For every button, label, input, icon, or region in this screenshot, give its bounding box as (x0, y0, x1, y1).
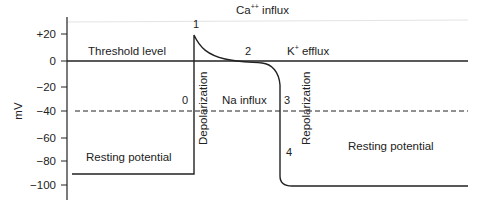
na-influx-label: Na influx (222, 94, 267, 106)
phase-label-0: 0 (182, 94, 188, 106)
k-efflux-label: K+ efflux (287, 44, 329, 57)
threshold-label: Threshold level (88, 45, 166, 57)
tick-label: −20 (36, 81, 56, 93)
resting-potential-left-label: Resting potential (86, 151, 172, 163)
resting-potential-right-label: Resting potential (348, 140, 434, 152)
tick-label: −100 (30, 179, 56, 191)
phase-label-2: 2 (245, 45, 251, 57)
phase-label-1: 1 (193, 18, 199, 30)
tick-label: +20 (36, 28, 56, 40)
top-guide-line (67, 20, 468, 22)
y-axis-ticks (61, 34, 67, 185)
tick-label: 0 (50, 55, 56, 67)
depolarization-label: Depolarization (197, 71, 209, 145)
repolarization-label: Repolarization (300, 71, 312, 145)
tick-label: −40 (36, 105, 56, 117)
phase-label-4: 4 (286, 146, 292, 158)
y-axis-label: mV (12, 102, 24, 120)
action-potential-diagram: Ca++ influx +20 0 −20 −40 −60 −80 −100 m… (0, 0, 477, 206)
phase-label-3: 3 (284, 94, 290, 106)
chart-title: Ca++ influx (236, 3, 289, 16)
tick-label: −60 (36, 132, 56, 144)
y-axis-tick-labels: +20 0 −20 −40 −60 −80 −100 (30, 28, 56, 191)
tick-label: −80 (36, 155, 56, 167)
